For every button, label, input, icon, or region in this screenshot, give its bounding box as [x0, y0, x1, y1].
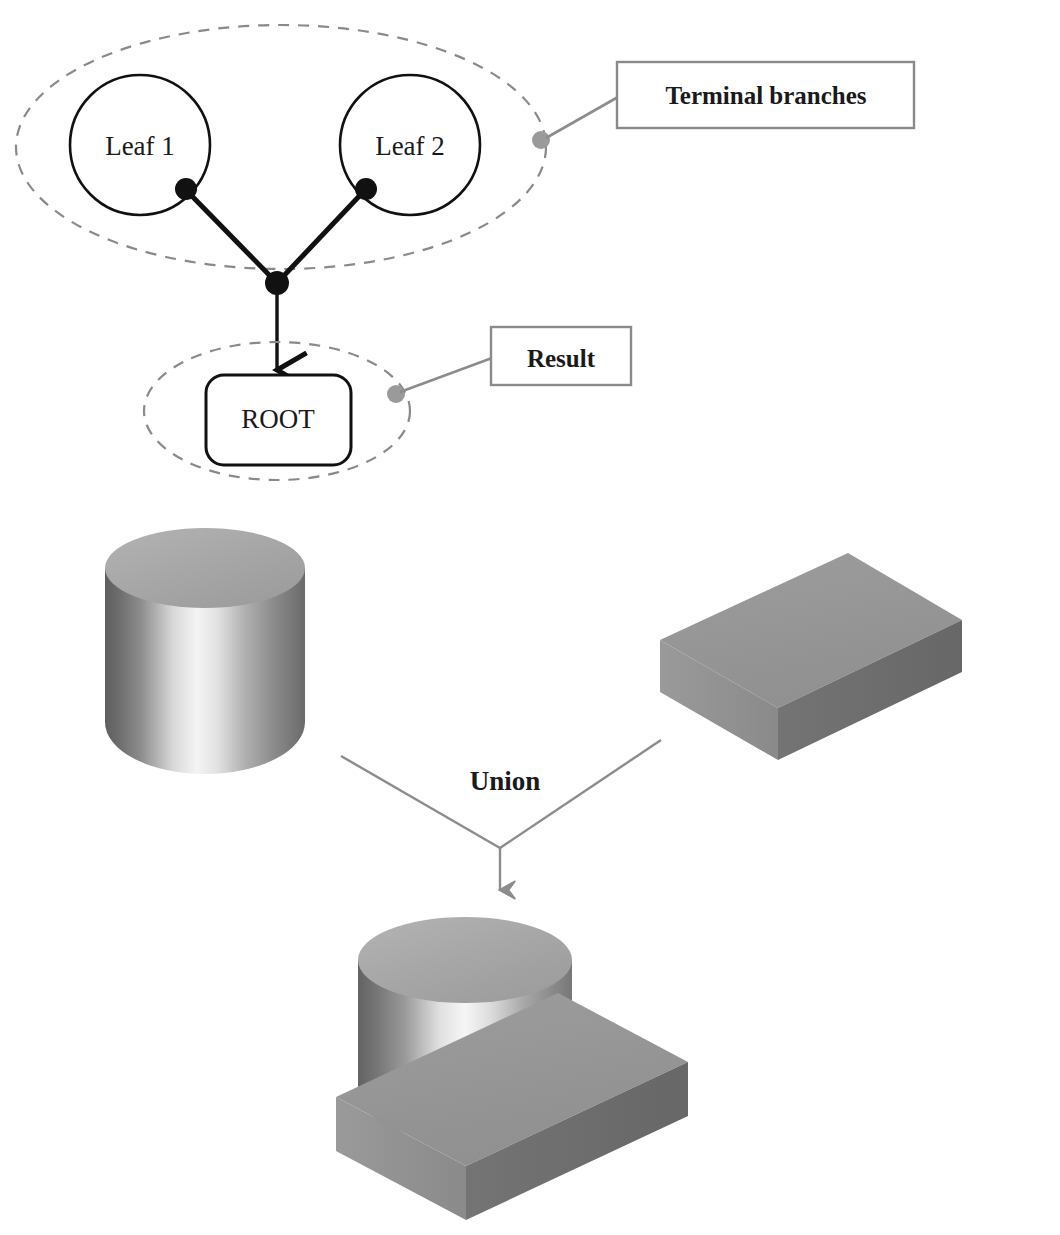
- terminal-branches-callout-label: Terminal branches: [665, 82, 866, 109]
- result-cylinder-top-face: [358, 917, 572, 1003]
- leaf-2-label: Leaf 2: [375, 131, 445, 161]
- edge-leaf1-junction: [186, 190, 277, 283]
- edge-leaf2-junction: [277, 190, 365, 283]
- union-operation-label: Union: [470, 766, 541, 796]
- leaf-1-label: Leaf 1: [105, 131, 175, 161]
- terminal-branches-callout-dot: [532, 131, 550, 149]
- result-callout-label: Result: [527, 345, 596, 372]
- leaf-1-connector-dot: [175, 178, 197, 200]
- leaf-2-connector-dot: [355, 178, 377, 200]
- operand-block: [660, 553, 962, 760]
- figure-canvas: Leaf 1 Leaf 2 ROOT Terminal branches Res…: [0, 0, 1060, 1235]
- result-callout-dot: [387, 385, 405, 403]
- diagram-svg: Leaf 1 Leaf 2 ROOT Terminal branches Res…: [0, 0, 1060, 1235]
- root-label: ROOT: [241, 404, 315, 434]
- cylinder-top-face: [105, 528, 305, 608]
- result-callout-line: [400, 358, 492, 392]
- result-union-solid: [336, 917, 688, 1220]
- operand-cylinder: [105, 528, 305, 774]
- terminal-branches-callout-line: [546, 97, 618, 138]
